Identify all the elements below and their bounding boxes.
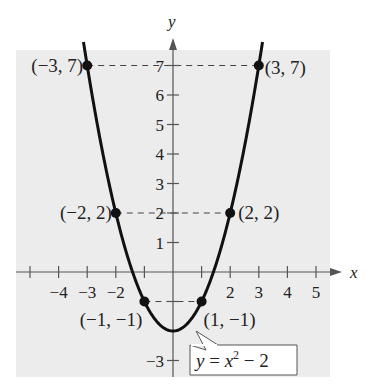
svg-text:4: 4 [283, 283, 292, 302]
x-axis-label: x [349, 263, 358, 282]
data-point [139, 297, 149, 307]
svg-text:3: 3 [255, 283, 264, 302]
point-label: (−2, 2) [60, 202, 112, 224]
svg-text:1: 1 [156, 234, 165, 253]
parabola-chart: −4−3−22345−31234567 (−3, 7)(3, 7)(−2, 2)… [0, 0, 375, 387]
svg-text:7: 7 [156, 57, 165, 76]
svg-text:2: 2 [226, 283, 235, 302]
svg-text:5: 5 [156, 116, 165, 135]
data-point [254, 61, 264, 71]
svg-text:5: 5 [312, 283, 321, 302]
point-label: (3, 7) [265, 57, 306, 79]
point-label: (1, −1) [204, 309, 256, 331]
point-label: (−1, −1) [80, 309, 143, 331]
svg-text:−3: −3 [146, 352, 164, 371]
svg-text:3: 3 [156, 175, 165, 194]
data-point [197, 297, 207, 307]
y-axis-label: y [166, 12, 176, 31]
svg-text:−2: −2 [107, 283, 125, 302]
data-point [111, 208, 121, 218]
point-label: (2, 2) [238, 202, 279, 224]
equation-label: y = x2 − 2 [194, 348, 269, 371]
data-point [225, 208, 235, 218]
svg-text:6: 6 [156, 86, 165, 105]
svg-text:4: 4 [156, 145, 165, 164]
svg-text:2: 2 [156, 204, 165, 223]
svg-text:−3: −3 [78, 283, 96, 302]
point-label: (−3, 7) [31, 55, 83, 77]
svg-text:−4: −4 [50, 283, 69, 302]
data-point [82, 61, 92, 71]
